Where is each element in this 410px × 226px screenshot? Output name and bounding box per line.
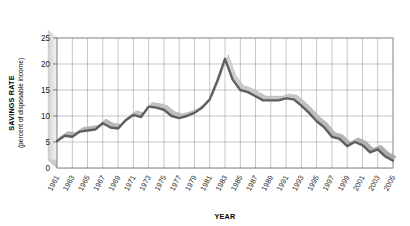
x-axis-title: YEAR — [215, 212, 236, 221]
y-tick-20: 20 — [41, 60, 51, 69]
y-axis-subtitle: (percent of disposable income) — [17, 58, 25, 148]
y-tick-15: 15 — [41, 86, 51, 95]
chart-canvas: 25 20 15 10 5 0 SAVINGS RATE (percent of… — [0, 0, 410, 226]
y-tick-10: 10 — [41, 112, 51, 121]
y-tick-0: 0 — [45, 164, 50, 173]
savings-rate-chart: 25 20 15 10 5 0 SAVINGS RATE (percent of… — [0, 0, 410, 226]
x-axis-labels: 1961196319651967196919711973197519771979… — [46, 174, 398, 193]
y-axis-title: SAVINGS RATE — [7, 75, 16, 130]
y-tick-5: 5 — [45, 138, 50, 147]
y-tick-25: 25 — [41, 34, 51, 43]
